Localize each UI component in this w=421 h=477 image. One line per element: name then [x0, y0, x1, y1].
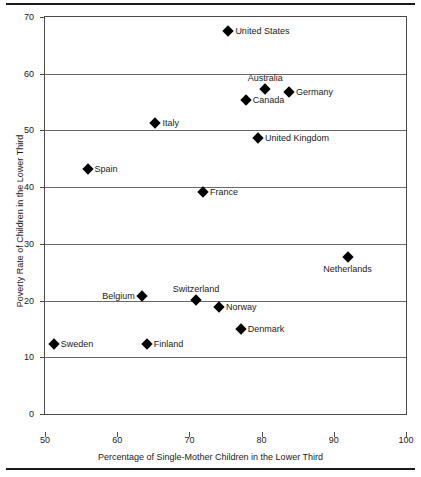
y-tick-label-0: 0 [4, 410, 34, 419]
y-tick-label-70: 70 [4, 13, 34, 22]
data-point-label: Australia [248, 73, 283, 83]
data-point-label: France [210, 187, 238, 197]
data-point-label: Germany [296, 87, 333, 97]
y-tick-label-60: 60 [4, 70, 34, 79]
diamond-marker-icon [190, 294, 201, 305]
top-rule [6, 3, 415, 5]
data-point-label: Italy [162, 118, 179, 128]
diamond-marker-icon [48, 339, 59, 350]
data-point-label: Canada [253, 95, 285, 105]
data-point-label: Norway [226, 302, 257, 312]
diamond-marker-icon [82, 163, 93, 174]
diamond-marker-icon [283, 87, 294, 98]
data-point-label: Belgium [102, 291, 135, 301]
diamond-marker-icon [213, 301, 224, 312]
x-axis-title: Percentage of Single-Mother Children in … [0, 452, 421, 462]
data-point-label: United States [235, 26, 289, 36]
diamond-marker-icon [235, 324, 246, 335]
data-markers: United StatesAustraliaGermanyCanadaItaly… [45, 17, 406, 414]
diamond-marker-icon [141, 339, 152, 350]
scatter-plot-figure: 0102030405060705060708090100 United Stat… [0, 0, 421, 477]
diamond-marker-icon [150, 117, 161, 128]
data-point-label: Finland [154, 339, 184, 349]
diamond-marker-icon [260, 83, 271, 94]
bottom-rule [6, 468, 415, 470]
data-point-label: Netherlands [323, 264, 372, 274]
data-point-label: Spain [95, 164, 118, 174]
diamond-marker-icon [252, 133, 263, 144]
diamond-marker-icon [342, 251, 353, 262]
x-tick-label-80: 80 [247, 436, 277, 445]
x-tick-label-50: 50 [30, 436, 60, 445]
x-tick-label-100: 100 [391, 436, 421, 445]
x-tick-label-70: 70 [174, 436, 204, 445]
data-point-label: United Kingdom [265, 133, 329, 143]
plot-area: 0102030405060705060708090100 United Stat… [44, 16, 407, 415]
y-tick-label-10: 10 [4, 353, 34, 362]
x-tick-label-60: 60 [102, 436, 132, 445]
data-point-label: Sweden [61, 339, 94, 349]
data-point-label: Switzerland [173, 284, 220, 294]
data-point-label: Denmark [248, 324, 285, 334]
y-axis-title: Poverty Rate of Children in the Lower Th… [15, 111, 25, 331]
y-tick-mark-0 [40, 414, 45, 415]
diamond-marker-icon [197, 186, 208, 197]
diamond-marker-icon [136, 290, 147, 301]
diamond-marker-icon [240, 94, 251, 105]
diamond-marker-icon [223, 25, 234, 36]
x-tick-label-90: 90 [319, 436, 349, 445]
